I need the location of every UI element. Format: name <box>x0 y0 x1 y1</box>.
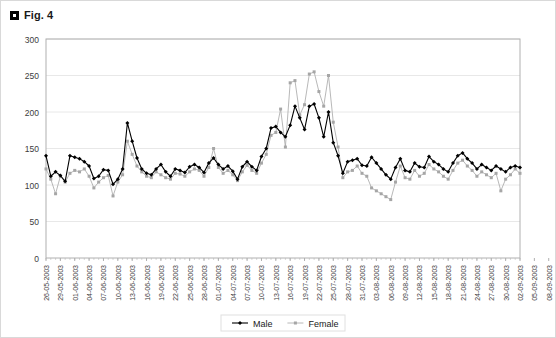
data-point <box>260 162 263 165</box>
data-point <box>432 167 435 170</box>
data-point <box>365 175 368 178</box>
data-point <box>485 173 488 176</box>
legend-label: Female <box>308 319 338 329</box>
data-point <box>193 167 196 170</box>
data-point <box>398 157 402 161</box>
data-point <box>159 173 162 176</box>
x-tick-label: 12-08-2003 <box>416 265 423 301</box>
data-point <box>428 163 431 166</box>
data-point <box>404 176 407 179</box>
y-tick-label: 100 <box>25 181 39 191</box>
x-tick-label: 05-09-2003 <box>531 265 538 301</box>
data-point <box>513 164 517 168</box>
broken-image-icon <box>10 11 19 20</box>
x-tick-label: 25-07-2003 <box>330 265 337 301</box>
data-point <box>322 105 325 108</box>
data-point <box>179 173 182 176</box>
x-tick-label: 04-07-2003 <box>230 265 237 301</box>
x-tick-label: 01-06-2003 <box>72 265 79 301</box>
data-point <box>307 104 311 108</box>
x-tick-label: 28-06-2003 <box>201 265 208 301</box>
x-tick-label: 08-09-2003 <box>546 265 553 301</box>
x-tick-label: 25-06-2003 <box>187 265 194 301</box>
y-tick-label: 150 <box>25 144 39 154</box>
data-point <box>112 194 115 197</box>
data-point <box>408 178 411 181</box>
x-tick-label: 13-07-2003 <box>273 265 280 301</box>
data-point <box>375 189 378 192</box>
chart-legend: MaleFemale <box>221 315 345 331</box>
data-point <box>518 165 522 169</box>
data-point <box>322 135 326 139</box>
line-chart: 050100150200250300 26-05-200329-05-20030… <box>1 25 555 337</box>
chart-svg: 050100150200250300 26-05-200329-05-20030… <box>1 25 555 337</box>
y-tick-label: 200 <box>25 108 39 118</box>
x-tick-label: 10-07-2003 <box>258 265 265 301</box>
data-point <box>226 169 229 172</box>
x-tick-label: 31-07-2003 <box>359 265 366 301</box>
data-point <box>341 171 345 175</box>
data-point <box>408 170 412 174</box>
data-point <box>246 164 249 167</box>
data-point <box>294 322 297 325</box>
x-tick-label: 16-06-2003 <box>144 265 151 301</box>
data-point <box>44 154 48 158</box>
series-male <box>44 102 522 186</box>
data-point <box>78 170 81 173</box>
data-point <box>351 169 354 172</box>
data-point <box>326 110 330 114</box>
data-point <box>174 172 177 175</box>
data-point <box>495 172 498 175</box>
data-point <box>365 164 369 168</box>
data-point <box>337 146 340 149</box>
data-point <box>135 156 139 160</box>
data-point <box>130 139 134 143</box>
x-tick-label: 18-08-2003 <box>445 265 452 301</box>
x-tick-label: 13-06-2003 <box>129 265 136 301</box>
data-point <box>222 172 225 175</box>
data-point <box>370 186 373 189</box>
data-point <box>480 170 483 173</box>
data-point <box>54 192 57 195</box>
x-tick-label: 28-07-2003 <box>345 265 352 301</box>
data-point <box>121 173 124 176</box>
x-tick-label: 16-07-2003 <box>287 265 294 301</box>
data-point <box>212 147 215 150</box>
data-point <box>403 168 407 172</box>
data-point <box>106 168 110 172</box>
data-point <box>269 126 273 130</box>
data-point <box>384 195 387 198</box>
data-point <box>131 153 134 156</box>
y-tick-label: 50 <box>30 217 40 227</box>
data-point <box>509 173 512 176</box>
x-tick-label: 09-08-2003 <box>402 265 409 301</box>
data-point <box>519 172 522 175</box>
data-point <box>471 169 474 172</box>
data-point <box>238 321 242 325</box>
data-point <box>356 165 359 168</box>
data-point <box>422 165 426 169</box>
x-tick-label: 01-07-2003 <box>215 265 222 301</box>
y-tick-label: 0 <box>34 254 39 264</box>
data-point <box>413 169 416 172</box>
data-point <box>447 178 450 181</box>
data-point <box>499 189 502 192</box>
data-point <box>350 158 354 162</box>
x-tick-label: 30-08-2003 <box>503 265 510 301</box>
data-point <box>466 165 469 168</box>
x-tick-label: 15-08-2003 <box>431 265 438 301</box>
data-point <box>135 165 138 168</box>
y-tick-label: 250 <box>25 71 39 81</box>
x-tick-label: 02-09-2003 <box>517 265 524 301</box>
data-point <box>298 116 302 120</box>
figure-page: Fig. 4 050100150200250300 26-05-200329-0… <box>0 0 556 338</box>
data-point <box>399 165 402 168</box>
data-point <box>68 172 71 175</box>
x-tick-label: 22-07-2003 <box>316 265 323 301</box>
data-point <box>45 167 48 170</box>
data-point <box>331 141 335 145</box>
x-tick-label: 27-08-2003 <box>488 265 495 301</box>
data-point <box>475 175 478 178</box>
x-axis-labels: 26-05-200329-05-200301-06-200304-06-2003… <box>43 265 555 301</box>
y-tick-label: 300 <box>25 35 39 45</box>
